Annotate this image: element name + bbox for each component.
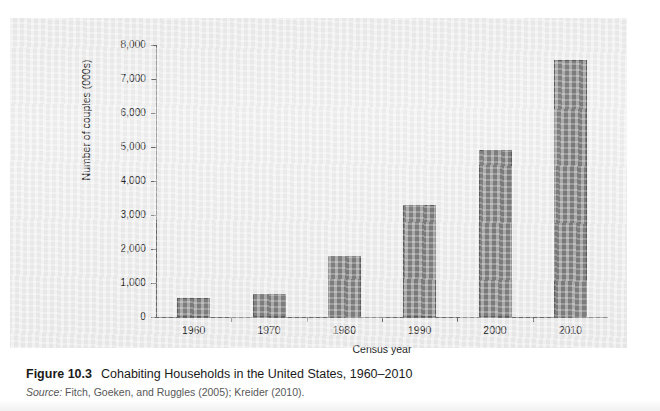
y-tick-label: 1,000	[100, 278, 146, 288]
x-tick-mark	[533, 318, 534, 322]
y-tick-mark	[151, 113, 156, 114]
x-tick-label-1970: 1970	[239, 324, 299, 336]
y-tick-label: 4,000	[100, 176, 146, 186]
y-tick-label: 7,000	[100, 74, 146, 84]
figure-number: Figure 10.3	[26, 367, 92, 381]
y-tick-mark	[151, 215, 156, 216]
x-tick-label-1980: 1980	[314, 324, 374, 336]
y-tick-label: 5,000	[100, 142, 146, 152]
y-tick-label: 2,000	[100, 244, 146, 254]
x-tick-mark	[382, 318, 383, 322]
x-tick-mark	[457, 318, 458, 322]
y-tick-label: 8,000	[100, 40, 146, 50]
x-axis-title: Census year	[156, 343, 608, 355]
y-axis-line	[156, 45, 157, 318]
y-tick-mark	[151, 181, 156, 182]
source-citation: Fitch, Goeken, and Ruggles (2005); Kreid…	[65, 386, 304, 398]
y-tick-mark	[151, 317, 156, 318]
y-tick-label: 0	[100, 312, 146, 322]
x-tick-label-1990: 1990	[390, 324, 450, 336]
figure-caption: Figure 10.3Cohabiting Households in the …	[26, 366, 636, 382]
caption-block: Figure 10.3Cohabiting Households in the …	[26, 366, 636, 399]
figure-title: Cohabiting Households in the United Stat…	[92, 367, 412, 381]
y-tick-mark	[151, 283, 156, 284]
y-axis-title: Number of couples (000s)	[80, 40, 92, 200]
y-tick-mark	[151, 147, 156, 148]
bar-chart-plot-area: 01,0002,0003,0004,0005,0006,0007,0008,00…	[10, 18, 627, 348]
bar-2000	[479, 150, 512, 317]
y-tick-mark	[151, 45, 156, 46]
x-tick-label-2000: 2000	[465, 324, 525, 336]
x-tick-mark	[231, 318, 232, 322]
bar-1990	[403, 205, 436, 317]
y-tick-label: 6,000	[100, 108, 146, 118]
y-tick-mark	[151, 79, 156, 80]
source-label: Source:	[26, 386, 62, 398]
figure-source: Source: Fitch, Goeken, and Ruggles (2005…	[26, 386, 636, 399]
bar-1980	[328, 256, 361, 317]
y-tick-mark	[151, 249, 156, 250]
figure-panel: 01,0002,0003,0004,0005,0006,0007,0008,00…	[10, 18, 627, 348]
bar-1970	[253, 294, 286, 317]
bar-2010	[554, 60, 587, 317]
scan-artifact	[0, 400, 660, 411]
x-tick-label-1960: 1960	[164, 324, 224, 336]
y-tick-label: 3,000	[100, 210, 146, 220]
bar-1960	[177, 298, 210, 317]
x-tick-mark	[307, 318, 308, 322]
x-tick-label-2010: 2010	[540, 324, 600, 336]
